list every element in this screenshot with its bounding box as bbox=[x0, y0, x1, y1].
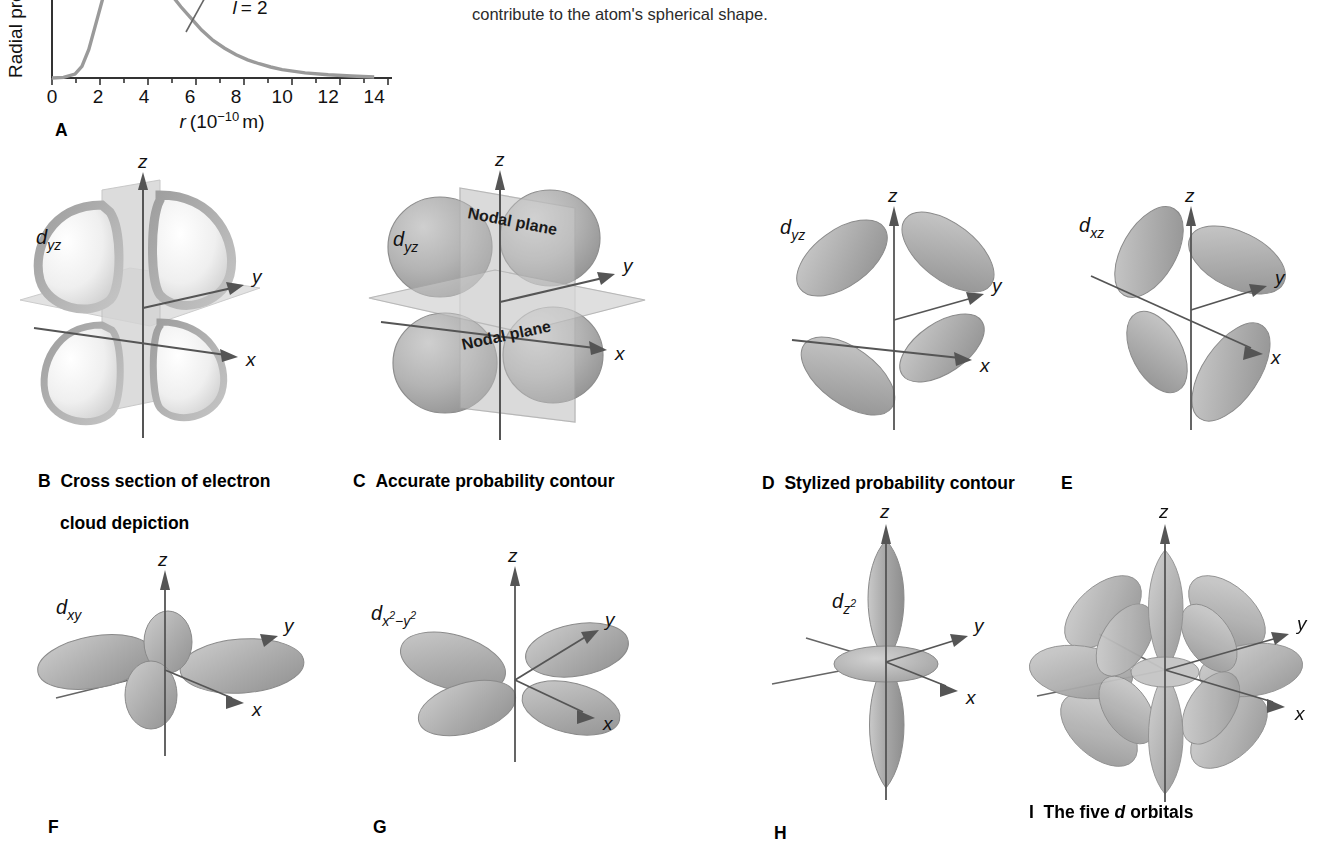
panel-i-caption: I The five d orbitals bbox=[1029, 802, 1193, 823]
y-axis-arrow bbox=[950, 634, 968, 647]
x-axis-arrow bbox=[220, 349, 238, 362]
y-axis-arrow bbox=[597, 272, 615, 285]
orbital-label-dx2y2: dx2−y2 bbox=[371, 602, 416, 629]
lobe-lower-right bbox=[888, 300, 996, 395]
panel-h-caption: H bbox=[774, 802, 787, 844]
lobe-right bbox=[178, 635, 305, 698]
x-axis-label: x bbox=[245, 349, 257, 370]
y-axis-label: y bbox=[1295, 613, 1308, 634]
x-tick-label: 12 bbox=[318, 86, 339, 107]
y-axis-label: y bbox=[1273, 267, 1286, 288]
z-axis-label: z bbox=[879, 501, 890, 522]
z-axis-arrow bbox=[881, 524, 891, 544]
x-axis-arrow bbox=[226, 695, 244, 709]
quantum-number-annotation: l= 2 bbox=[232, 0, 267, 18]
panel-f-caption: F bbox=[48, 796, 59, 838]
panel-e-dxz: z y x dxz E bbox=[1065, 180, 1315, 460]
x-axis-ticks bbox=[52, 78, 388, 85]
x-tick-label: 0 bbox=[47, 86, 58, 107]
panel-c-accurate-contour: z y x dyz Nodal plane Nodal plane C Accu… bbox=[345, 150, 695, 460]
z-axis-arrow bbox=[889, 206, 899, 226]
orbital-label-dz2: dz2 bbox=[832, 590, 856, 617]
x-axis-label: x bbox=[602, 713, 614, 734]
z-axis-label: z bbox=[494, 149, 505, 170]
radial-probability-plot: 02468101214 r(10−10m) Radial probability… bbox=[0, 0, 470, 140]
y-axis-label: y bbox=[250, 266, 263, 287]
x-axis-title: r(10−10m) bbox=[179, 109, 264, 133]
caption-line-2: contribute to the atom's spherical shape… bbox=[472, 3, 1322, 26]
lobe-upper-left bbox=[783, 205, 900, 311]
y-axis-title: Radial probability bbox=[5, 0, 26, 78]
y-axis-label: y bbox=[990, 275, 1003, 296]
z-axis-arrow bbox=[1186, 206, 1196, 226]
z-axis-label: z bbox=[887, 185, 898, 206]
z-axis-label: z bbox=[137, 151, 148, 172]
panel-c-caption: C Accurate probability contour bbox=[353, 450, 683, 492]
panel-b-cross-section: z y x dyz B Cross section of electron cl… bbox=[10, 150, 340, 460]
z-axis-label: z bbox=[157, 549, 168, 570]
lobe-upper-right bbox=[153, 195, 232, 305]
panel-h-dz2: z y x dz2 H bbox=[720, 520, 1010, 810]
lobe-upper-left bbox=[38, 205, 119, 309]
y-axis-arrow bbox=[1271, 632, 1289, 645]
lobe-lower-right bbox=[153, 322, 223, 418]
y-axis-arrow bbox=[966, 292, 984, 305]
y-axis-label: y bbox=[603, 609, 616, 630]
radial-probability-curve bbox=[52, 0, 374, 78]
x-tick-label: 14 bbox=[364, 86, 386, 107]
lobe-lower-left bbox=[788, 322, 908, 431]
x-axis-arrow bbox=[940, 683, 958, 697]
z-axis-arrow bbox=[160, 570, 170, 590]
x-tick-labels: 02468101214 bbox=[47, 86, 385, 107]
orbital-lobes bbox=[394, 615, 633, 745]
panel-i-composite: z y x I The five d orbitals bbox=[1015, 520, 1315, 810]
figure-caption: a central, donut-shaped region. I, A com… bbox=[472, 0, 1322, 26]
panel-a-letter: A bbox=[55, 120, 68, 141]
orbital-lobes bbox=[783, 197, 1007, 431]
panel-b-caption: B Cross section of electron cloud depict… bbox=[38, 450, 338, 534]
z-axis-arrow bbox=[495, 170, 505, 190]
x-axis-label: x bbox=[965, 687, 977, 708]
orbital-lobes bbox=[1101, 195, 1296, 434]
orbital-label-dyz: dyz bbox=[780, 216, 805, 243]
panel-f-dxy: z y x dxy F bbox=[20, 530, 320, 800]
lobe-upper-right bbox=[888, 197, 1008, 308]
x-axis-arrow bbox=[1267, 699, 1285, 713]
panel-g-caption: G bbox=[373, 796, 387, 838]
panel-d-stylized-contour: z y x dyz D Stylized probability contour bbox=[770, 180, 1050, 460]
orbital-label-dxy: dxy bbox=[56, 596, 82, 623]
x-tick-label: 2 bbox=[93, 86, 104, 107]
z-axis-arrow bbox=[510, 566, 520, 586]
lobe-upper-right bbox=[1178, 212, 1296, 308]
x-axis-label: x bbox=[979, 355, 991, 376]
z-axis-label: z bbox=[1158, 501, 1169, 522]
orbital-lobes bbox=[33, 611, 305, 729]
x-tick-label: 8 bbox=[231, 86, 242, 107]
panel-a-radial-probability-chart: 02468101214 r(10−10m) Radial probability… bbox=[0, 0, 470, 140]
lobe-upper-right bbox=[521, 615, 632, 684]
z-axis-arrow bbox=[138, 172, 148, 190]
y-axis-label: y bbox=[972, 615, 985, 636]
x-tick-label: 6 bbox=[185, 86, 196, 107]
x-axis-label: x bbox=[614, 343, 626, 364]
y-axis-label: y bbox=[621, 255, 634, 276]
panel-e-caption: E bbox=[1061, 452, 1073, 494]
x-tick-label: 4 bbox=[139, 86, 150, 107]
y-axis bbox=[1191, 290, 1255, 310]
panel-g-dx2y2: z y x dx2−y2 G bbox=[355, 530, 655, 800]
lobe-lower-right bbox=[1176, 310, 1285, 434]
z-axis-arrow bbox=[1160, 524, 1170, 544]
x-axis-label: x bbox=[1294, 703, 1306, 724]
y-axis-label: y bbox=[282, 615, 295, 636]
orbital-label-dxz: dxz bbox=[1079, 214, 1104, 241]
z-axis-label: z bbox=[507, 545, 518, 566]
x-axis-label: x bbox=[251, 699, 263, 720]
z-axis-label: z bbox=[1184, 185, 1195, 206]
orbital-lobes-composite bbox=[1026, 550, 1306, 794]
x-axis-label: x bbox=[1270, 347, 1282, 368]
lobe-upper-left bbox=[1101, 195, 1198, 309]
x-tick-label: 10 bbox=[272, 86, 293, 107]
lobe-lower-left bbox=[1114, 301, 1199, 402]
panel-d-caption: D Stylized probability contour bbox=[762, 452, 1062, 494]
